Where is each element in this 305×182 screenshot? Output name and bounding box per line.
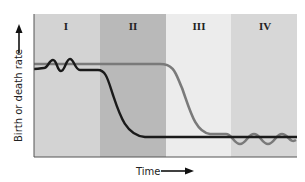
stage-label-IV: IV xyxy=(259,20,271,32)
x-axis-arrow-icon xyxy=(185,168,194,175)
y-axis-label: Birth or death rate xyxy=(13,49,24,142)
y-axis-arrow-icon xyxy=(16,24,23,33)
stage-label-III: III xyxy=(193,20,206,32)
stage-label-II: II xyxy=(129,20,138,32)
demographic-transition-chart: I II III IV Birth or death rate Time xyxy=(0,0,305,182)
region-III xyxy=(166,14,231,157)
y-axis-label-group: Birth or death rate xyxy=(13,24,24,142)
x-axis-label: Time xyxy=(135,166,160,177)
x-axis-label-group: Time xyxy=(135,166,194,177)
stage-label-I: I xyxy=(64,20,68,32)
region-I xyxy=(34,14,100,157)
